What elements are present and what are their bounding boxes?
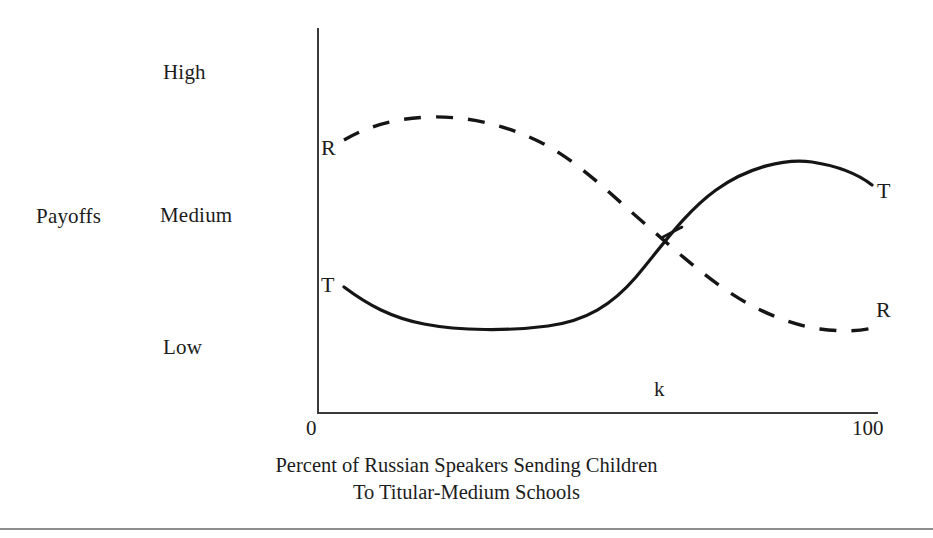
- series-curve-r: [344, 117, 873, 331]
- intersection-tick-k: [663, 227, 682, 237]
- x-axis-caption-line-1: Percent of Russian Speakers Sending Chil…: [0, 452, 933, 479]
- curve-label-r-right: R: [876, 299, 891, 321]
- page-divider-rule: [0, 528, 933, 530]
- x-axis-caption-line-2: To Titular-Medium Schools: [0, 479, 933, 506]
- x-tick-label-min: 0: [306, 418, 317, 439]
- threshold-label-k: k: [654, 379, 665, 400]
- curve-label-t-right: T: [877, 180, 890, 202]
- x-tick-label-max: 100: [852, 418, 884, 439]
- curve-label-t-left: T: [321, 274, 334, 296]
- figure-canvas: Payoffs High Medium Low R T T R k 0 100 …: [0, 0, 933, 538]
- axis-lines: [318, 28, 878, 413]
- curve-label-r-left: R: [321, 137, 336, 159]
- series-curve-t: [344, 161, 872, 329]
- x-axis-caption: Percent of Russian Speakers Sending Chil…: [0, 452, 933, 506]
